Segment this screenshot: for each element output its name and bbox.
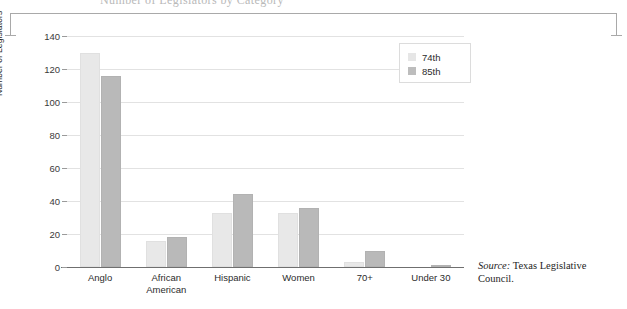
gridline-40 bbox=[67, 201, 464, 202]
y-tick-0 bbox=[62, 267, 67, 268]
legend-label-85th: 85th bbox=[422, 66, 441, 77]
gridline-20 bbox=[67, 234, 464, 235]
legend-entry-74th: 74th bbox=[408, 50, 470, 64]
cut-off-title-text: Number of Legislators by Category bbox=[100, 0, 540, 7]
bracket-leg-right bbox=[616, 13, 617, 36]
bar-85th-anglo bbox=[101, 76, 121, 267]
y-tick-20 bbox=[62, 234, 67, 235]
gridline-100 bbox=[67, 102, 464, 103]
bar-85th-hispanic bbox=[233, 194, 253, 267]
x-tick-label-line: American bbox=[133, 284, 199, 296]
x-tick-label-under-30: Under 30 bbox=[398, 272, 464, 284]
gridline-80 bbox=[67, 135, 464, 136]
y-tick-label-80: 80 bbox=[32, 130, 60, 141]
gridline-140 bbox=[67, 36, 464, 37]
y-tick-label-100: 100 bbox=[32, 97, 60, 108]
y-axis-tick-labels: 020406080100120140 bbox=[28, 36, 60, 267]
x-tick-label-line: Anglo bbox=[67, 272, 133, 284]
y-tick-80 bbox=[62, 135, 67, 136]
x-tick-label-women: Women bbox=[266, 272, 332, 284]
x-axis-tick-labels: AngloAfricanAmericanHispanicWomen70+Unde… bbox=[67, 270, 464, 306]
x-tick-label-hispanic: Hispanic bbox=[199, 272, 265, 284]
y-tick-label-120: 120 bbox=[32, 64, 60, 75]
bar-85th-african-american bbox=[167, 237, 187, 267]
bar-74th-women bbox=[278, 213, 298, 267]
bracket-foot-right bbox=[611, 35, 622, 36]
bar-74th-african-american bbox=[146, 241, 166, 267]
y-tick-label-0: 0 bbox=[32, 262, 60, 273]
source-note: Source: Texas Legislative Council. bbox=[478, 259, 608, 285]
legend-entry-85th: 85th bbox=[408, 64, 470, 78]
x-tick-label-line: African bbox=[133, 272, 199, 284]
x-tick-label-line: Under 30 bbox=[398, 272, 464, 284]
bar-74th-70- bbox=[344, 262, 364, 267]
bar-74th-anglo bbox=[80, 53, 100, 268]
legend-swatch-85th bbox=[408, 67, 416, 75]
figure-root: Number of Legislators by Category Number… bbox=[0, 0, 627, 309]
y-tick-label-60: 60 bbox=[32, 163, 60, 174]
bar-74th-hispanic bbox=[212, 213, 232, 267]
legend-label-74th: 74th bbox=[422, 52, 441, 63]
bracket-top-rule bbox=[10, 13, 617, 14]
x-tick-label-line: 70+ bbox=[332, 272, 398, 284]
y-tick-100 bbox=[62, 102, 67, 103]
gridline-60 bbox=[67, 168, 464, 169]
bracket-leg-left bbox=[10, 13, 11, 36]
x-axis-baseline bbox=[61, 267, 464, 268]
chart-legend: 74th 85th bbox=[399, 43, 471, 83]
y-tick-140 bbox=[62, 36, 67, 37]
x-tick-label-african-american: AfricanAmerican bbox=[133, 272, 199, 295]
x-tick-label-anglo: Anglo bbox=[67, 272, 133, 284]
x-tick-label-line: Hispanic bbox=[199, 272, 265, 284]
legend-swatch-74th bbox=[408, 53, 416, 61]
source-note-label: Source: bbox=[478, 260, 510, 271]
bar-85th-70- bbox=[365, 251, 385, 268]
y-tick-label-140: 140 bbox=[32, 31, 60, 42]
y-axis-title: Number of Legislators bbox=[0, 11, 4, 96]
bracket-foot-left bbox=[5, 35, 16, 36]
x-tick-label-70-: 70+ bbox=[332, 272, 398, 284]
x-tick-label-line: Women bbox=[266, 272, 332, 284]
y-tick-label-20: 20 bbox=[32, 229, 60, 240]
y-tick-label-40: 40 bbox=[32, 196, 60, 207]
y-tick-60 bbox=[62, 168, 67, 169]
y-tick-40 bbox=[62, 201, 67, 202]
bar-85th-women bbox=[299, 208, 319, 267]
y-tick-120 bbox=[62, 69, 67, 70]
bar-85th-under-30 bbox=[431, 265, 451, 267]
cut-off-title: Number of Legislators by Category bbox=[100, 0, 540, 7]
